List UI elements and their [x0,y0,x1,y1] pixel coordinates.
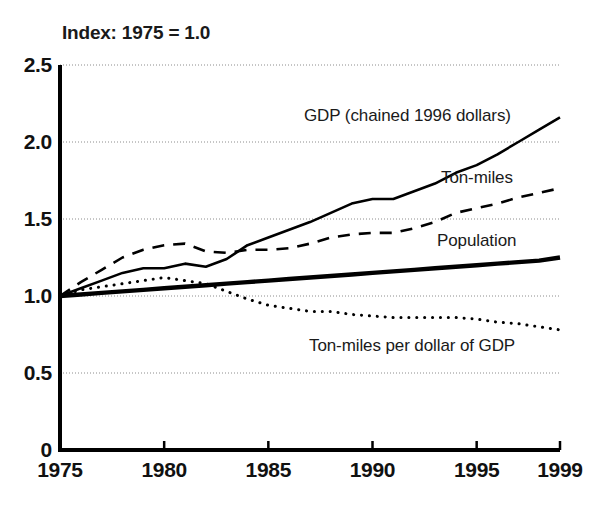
series-line-1 [60,188,560,296]
series-line-3 [60,278,560,330]
series-paths [60,117,560,330]
axis-lines [58,65,560,450]
chart-figure: Index: 1975 = 1.0 00.51.01.52.02.5 19751… [0,0,595,513]
gridlines [60,65,560,373]
series-line-2 [60,258,560,297]
chart-plot-area [0,0,595,513]
